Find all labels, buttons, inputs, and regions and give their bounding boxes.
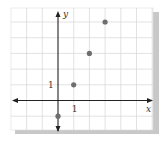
x-tick-label: 1 (72, 104, 78, 114)
y-axis-label: y (62, 9, 69, 19)
coordinate-plane: yx11 (0, 0, 163, 145)
x-axis-label: x (146, 104, 151, 114)
data-point (103, 19, 108, 24)
data-point (87, 51, 92, 56)
data-point (55, 114, 60, 119)
y-tick-label: 1 (48, 80, 54, 90)
data-point (71, 82, 76, 87)
shadow-right (153, 12, 159, 134)
shadow-bottom (15, 130, 159, 134)
